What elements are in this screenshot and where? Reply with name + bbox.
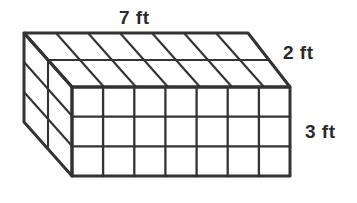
left-face-grid: [24, 60, 72, 149]
front-face-outline: [72, 87, 290, 176]
depth-label: 2 ft: [283, 43, 314, 62]
length-label: 7 ft: [119, 8, 150, 27]
top-face-grid: [48, 33, 269, 87]
front-face-grid: [72, 87, 290, 176]
prism-outline: [24, 33, 290, 176]
prism-svg: [0, 0, 357, 203]
height-label: 3 ft: [305, 122, 336, 141]
diagram-canvas: 7 ft 2 ft 3 ft: [0, 0, 357, 203]
